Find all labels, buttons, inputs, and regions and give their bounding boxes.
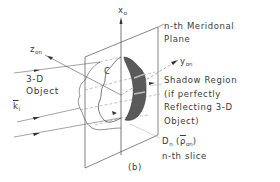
incident-ray-2 [17, 108, 80, 122]
x-axis-arrow [120, 17, 123, 24]
y-axis-label: yon [180, 56, 193, 67]
meridional-plane-diagram: xo zon n-th Meridonal Plane yon C 3-D Ob… [0, 0, 280, 182]
shadow-region-label: Shadow Region (if perfectly Reflecting 3… [164, 74, 237, 128]
contour-label: C [104, 66, 111, 76]
figure-caption: (b) [128, 162, 142, 172]
incident-ray-1 [14, 62, 100, 73]
object-label: 3-D Object [26, 73, 59, 97]
z-axis-label: zon [30, 44, 42, 55]
plane-label: n-th Meridonal Plane [164, 20, 234, 46]
incident-ray-3 [14, 118, 120, 137]
k-vector-label: ki [13, 101, 20, 112]
shadow-region [124, 57, 146, 120]
x-axis-label: xo [118, 5, 127, 16]
slice-label: Dn (ρon) n-th slice [162, 134, 207, 163]
meridional-plane [85, 27, 158, 168]
